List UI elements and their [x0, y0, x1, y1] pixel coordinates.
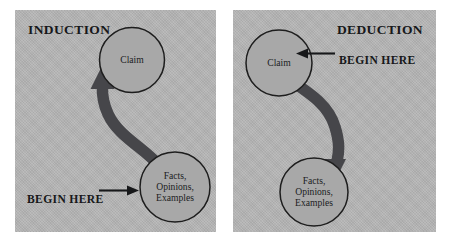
- induction-facts-circle: [140, 152, 210, 222]
- deduction-facts-circle: [280, 158, 348, 226]
- deduction-claim-circle: [246, 30, 312, 96]
- panel-title-deduction: DEDUCTION: [337, 23, 423, 37]
- begin-here-label-deduction: BEGIN HERE: [339, 55, 416, 67]
- deduction-diagram-graphics: [233, 10, 436, 232]
- induction-deduction-figure: INDUCTION BEGIN HERE Claim Facts, Opinio…: [0, 0, 451, 241]
- panel-deduction: DEDUCTION BEGIN HERE Claim Facts, Opinio…: [233, 10, 436, 232]
- begin-here-label-induction: BEGIN HERE: [27, 194, 104, 206]
- induction-begin-here-arrow: [99, 186, 139, 196]
- panel-induction: INDUCTION BEGIN HERE Claim Facts, Opinio…: [15, 10, 216, 232]
- panel-title-induction: INDUCTION: [28, 23, 110, 37]
- induction-claim-circle: [100, 28, 165, 93]
